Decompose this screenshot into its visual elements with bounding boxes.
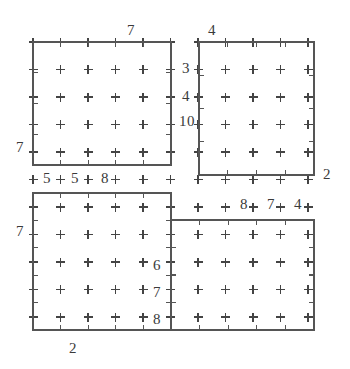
- grid-plus-mark: [139, 93, 148, 102]
- grid-plus-mark: [304, 175, 313, 184]
- grid-plus-mark: [166, 175, 175, 184]
- grid-plus-mark: [304, 65, 313, 74]
- grid-plus-mark: [276, 175, 285, 184]
- grid-plus-mark: [56, 175, 65, 184]
- top-right-rectangle: [199, 42, 314, 175]
- grid-plus-mark: [29, 175, 38, 184]
- grid-plus-mark: [139, 258, 148, 267]
- grid-plus-mark: [56, 258, 65, 267]
- grid-plus-mark: [276, 203, 285, 212]
- grid-plus-mark: [221, 285, 230, 294]
- grid-plus-mark: [194, 148, 203, 157]
- edge-label-left-edge-top-left: 7: [16, 140, 24, 155]
- grid-plus-mark: [56, 230, 65, 239]
- grid-plus-mark: [276, 258, 285, 267]
- top-left-rectangle-outline: [33, 42, 171, 165]
- grid-plus-mark: [139, 148, 148, 157]
- grid-plus-mark: [221, 120, 230, 129]
- grid-plus-mark: [56, 148, 65, 157]
- grid-plus-mark: [56, 203, 65, 212]
- grid-plus-mark: [194, 65, 203, 74]
- grid-plus-mark: [221, 203, 230, 212]
- grid-plus-mark: [139, 120, 148, 129]
- grid-plus-mark: [304, 120, 313, 129]
- edge-label-bottom-edge-top-left-c: 8: [101, 171, 109, 186]
- edge-label-right-edge-top-left-c: 10: [179, 114, 195, 129]
- top-left-rectangle: [33, 42, 171, 165]
- grid-plus-mark: [221, 93, 230, 102]
- grid-plus-mark: [249, 258, 258, 267]
- edge-label-bottom-edge-top-right-b: 7: [267, 197, 275, 212]
- grid-plus-mark: [111, 148, 120, 157]
- grid-plus-mark: [249, 148, 258, 157]
- grid-plus-mark: [304, 93, 313, 102]
- edge-label-right-edge-bottom-left-a: 6: [153, 258, 161, 273]
- grid-plus-mark: [304, 258, 313, 267]
- grid-plus-mark: [249, 93, 258, 102]
- grid-plus-mark: [276, 285, 285, 294]
- edge-label-right-edge-top-right: 2: [323, 167, 331, 182]
- grid-plus-mark: [249, 175, 258, 184]
- grid-plus-mark: [221, 258, 230, 267]
- edge-label-left-edge-bottom-left: 7: [16, 224, 24, 239]
- grid-plus-mark: [56, 313, 65, 322]
- top-right-rectangle-outline: [199, 42, 314, 175]
- grid-plus-mark: [194, 313, 203, 322]
- grid-plus-mark: [221, 148, 230, 157]
- grid-plus-mark: [249, 203, 258, 212]
- grid-plus-mark: [194, 93, 203, 102]
- grid-plus-mark: [249, 285, 258, 294]
- grid-plus-mark: [221, 175, 230, 184]
- grid-plus-mark: [139, 175, 148, 184]
- grid-plus-mark: [84, 175, 93, 184]
- edge-label-top-edge-top-left: 7: [127, 23, 135, 38]
- grid-plus-mark: [56, 93, 65, 102]
- edge-label-bottom-edge-top-left-a: 5: [43, 171, 51, 186]
- grid-plus-mark: [111, 175, 120, 184]
- grid-plus-mark: [111, 285, 120, 294]
- grid-plus-mark: [276, 93, 285, 102]
- grid-plus-mark: [194, 175, 203, 184]
- edge-label-bottom-edge-top-right-c: 4: [294, 197, 302, 212]
- grid-plus-mark: [84, 120, 93, 129]
- bottom-left-rectangle-outline: [33, 193, 171, 330]
- grid-plus-mark: [194, 230, 203, 239]
- bottom-left-rectangle: [33, 193, 171, 330]
- grid-plus-mark: [111, 65, 120, 74]
- grid-plus-mark: [249, 65, 258, 74]
- edge-label-bottom-edge-bottom-left: 2: [69, 341, 77, 356]
- grid-plus-mark: [111, 313, 120, 322]
- grid-plus-mark: [139, 285, 148, 294]
- grid-plus-mark: [194, 203, 203, 212]
- grid-plus-mark: [56, 120, 65, 129]
- grid-plus-mark: [276, 313, 285, 322]
- grid-plus-mark: [139, 203, 148, 212]
- grid-plus-mark: [276, 230, 285, 239]
- grid-plus-mark: [111, 93, 120, 102]
- grid-plus-mark: [84, 285, 93, 294]
- edge-label-right-edge-top-left-b: 4: [182, 89, 190, 104]
- edge-label-right-edge-bottom-left-b: 7: [153, 285, 161, 300]
- grid-plus-mark: [276, 148, 285, 157]
- grid-plus-mark: [139, 230, 148, 239]
- grid-plus-mark: [221, 65, 230, 74]
- grid-plus-mark: [249, 313, 258, 322]
- grid-plus-mark: [139, 313, 148, 322]
- grid-plus-mark: [111, 258, 120, 267]
- grid-plus-mark: [304, 148, 313, 157]
- grid-plus-mark: [84, 65, 93, 74]
- grid-plus-mark: [304, 203, 313, 212]
- grid-plus-mark: [56, 285, 65, 294]
- grid-plus-mark: [304, 313, 313, 322]
- grid-plus-mark: [56, 65, 65, 74]
- grid-plus-mark: [276, 65, 285, 74]
- grid-plus-mark: [84, 93, 93, 102]
- edge-label-bottom-edge-top-left-b: 5: [71, 171, 79, 186]
- bottom-right-rectangle-outline: [171, 220, 314, 330]
- diagram-canvas: [0, 0, 350, 369]
- edge-label-right-edge-top-left-a: 3: [182, 61, 190, 76]
- grid-plus-mark: [276, 120, 285, 129]
- grid-plus-mark: [139, 65, 148, 74]
- grid-plus-mark: [111, 203, 120, 212]
- grid-plus-mark: [194, 258, 203, 267]
